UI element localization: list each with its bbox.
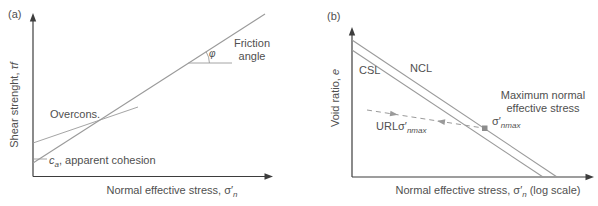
phi-symbol-text: φ	[209, 48, 216, 59]
sigma-subscript-a: n	[233, 190, 237, 199]
ncl-label: NCL	[410, 62, 432, 74]
panel-a-y-axis-arrow-icon	[30, 13, 36, 22]
sigma-nmax-marker	[482, 126, 488, 132]
panel-b-x-axis-label: Normal effective stress, σ′n (log scale)	[396, 184, 581, 196]
sigma-symbol-b: σ′	[513, 184, 522, 196]
overconsolidated-label: Overcons.	[50, 108, 100, 120]
friction-angle-label: Frictionangle	[234, 37, 270, 63]
tau-symbol: τ	[8, 65, 20, 69]
url-sigma-symbol: σ′	[398, 120, 407, 132]
url-label-prefix: URL	[376, 120, 398, 132]
soil-mechanics-figure: (a) Shear strenght, τf Normal effective …	[0, 0, 598, 206]
panel-b-y-axis-label: Void ratio, e	[329, 69, 341, 127]
log-scale-text: (log scale)	[527, 184, 581, 196]
csl-label-text: CSL	[359, 64, 380, 76]
panel-a-tag: (a)	[8, 8, 21, 20]
url-sigma-subscript: nmax	[407, 126, 427, 135]
ncl-label-text: NCL	[410, 62, 432, 74]
tau-subscript: f	[8, 62, 20, 65]
csl-label: CSL	[359, 64, 380, 76]
sigma-nmax-symbol: σ′	[492, 115, 501, 127]
sigma-symbol-a: σ′	[224, 184, 233, 196]
panel-b-x-axis-label-text: Normal effective stress,	[396, 184, 514, 196]
panel-a-x-axis-label-text: Normal effective stress,	[106, 184, 224, 196]
panel-b-y-axis-label-text: Void ratio,	[329, 75, 341, 127]
max-stress-label-line2: effective stress	[501, 102, 585, 115]
cohesion-text: , apparent cohesion	[59, 154, 156, 166]
panel-b-y-axis-arrow-icon	[349, 27, 355, 36]
sigma-nmax-subscript: nmax	[501, 121, 521, 130]
panel-b-x-axis-arrow-icon	[586, 174, 595, 180]
apparent-cohesion-label: ca, apparent cohesion	[49, 154, 156, 166]
url-arrow-left-icon	[437, 118, 446, 125]
max-stress-label: Maximum normaleffective stress	[501, 89, 585, 115]
overconsolidated-label-text: Overcons.	[50, 108, 100, 120]
panel-b-tag: (b)	[327, 10, 340, 22]
max-stress-label-line1: Maximum normal	[501, 89, 585, 102]
sigma-nmax-label: σ′nmax	[492, 115, 520, 127]
panel-a-y-axis-label: Shear strenght, τf	[8, 62, 20, 147]
friction-angle-label-line1: Friction	[234, 37, 270, 50]
friction-angle-label-line2: angle	[234, 50, 270, 63]
panel-a-y-axis-label-text: Shear strenght,	[8, 69, 20, 147]
void-ratio-symbol: e	[329, 69, 341, 75]
failure-envelope-line	[33, 14, 265, 163]
panel-a-x-axis-label: Normal effective stress, σ′n	[106, 184, 237, 196]
phi-angle-symbol: φ	[209, 48, 216, 60]
panel-b-tag-text: (b)	[327, 10, 340, 22]
panel-a-x-axis-arrow-icon	[265, 173, 274, 179]
url-label: URLσ′nmax	[376, 120, 426, 132]
panel-a-tag-text: (a)	[8, 8, 21, 20]
